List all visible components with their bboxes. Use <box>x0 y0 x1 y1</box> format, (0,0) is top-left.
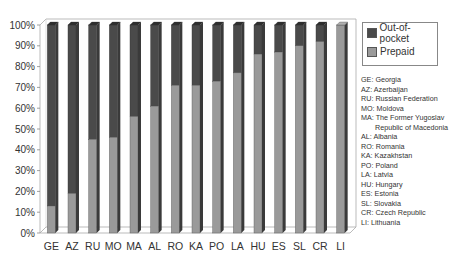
x-category-label: RO <box>167 240 183 252</box>
out-of-pocket-swatch-icon <box>367 28 377 38</box>
x-category-label: LA <box>231 240 244 252</box>
y-tick-label: 10% <box>15 207 35 218</box>
abbr-line-continuation: Republic of Macedonia <box>361 123 448 133</box>
abbr-line: AZ: Azerbaijan <box>361 85 448 95</box>
legend-label: Out-of-pocket <box>380 22 437 44</box>
abbr-line: RO: Romania <box>361 142 448 152</box>
y-tick-label: 90% <box>15 40 35 51</box>
bar-cr <box>316 22 327 233</box>
bar-al <box>151 22 162 233</box>
bar-la <box>233 22 244 233</box>
abbr-line: ES: Estonia <box>361 189 448 199</box>
abbr-line: PO: Poland <box>361 161 448 171</box>
x-category-label: KA <box>189 240 203 252</box>
bar-es <box>275 22 286 233</box>
x-category-label: GE <box>44 240 59 252</box>
x-category-label: SL <box>293 240 306 252</box>
abbr-line: SL: Slovakia <box>361 199 448 209</box>
y-tick-label: 80% <box>15 61 35 72</box>
y-tick-label: 100% <box>9 20 35 31</box>
bar-ma <box>130 22 141 233</box>
x-category-label: LI <box>336 240 345 252</box>
abbr-line: KA: Kazakhstan <box>361 151 448 161</box>
legend-item-out-of-pocket: Out-of-pocket <box>363 23 437 42</box>
x-category-label: PO <box>209 240 224 252</box>
bar-ru <box>89 22 100 233</box>
bar-li <box>337 22 348 233</box>
bar-mo <box>109 22 120 233</box>
y-tick-label: 40% <box>15 144 35 155</box>
abbr-line: LA: Latvia <box>361 170 448 180</box>
abbr-line: AL: Albania <box>361 132 448 142</box>
x-category-label: MO <box>105 240 122 252</box>
y-tick-label: 30% <box>15 165 35 176</box>
abbr-line: HU: Hungary <box>361 180 448 190</box>
x-category-label: ES <box>272 240 286 252</box>
y-tick-label: 0% <box>21 228 36 239</box>
bar-ge <box>47 22 58 233</box>
abbr-line: RU: Russian Federation <box>361 94 448 104</box>
x-category-label: CR <box>312 240 328 252</box>
x-category-label: AZ <box>65 240 79 252</box>
country-abbreviation-key: GE: Georgia AZ: Azerbaijan RU: Russian F… <box>361 75 448 227</box>
x-category-label: HU <box>250 240 265 252</box>
bar-ro <box>171 22 182 233</box>
bar-ka <box>192 22 203 233</box>
x-axis-categories: GEAZRUMOMAALROKAPOLAHUESSLCRLI <box>44 240 345 252</box>
legend-item-prepaid: Prepaid <box>363 42 437 61</box>
abbr-line: LI: Lithuania <box>361 218 448 228</box>
abbr-line: GE: Georgia <box>361 75 448 85</box>
y-tick-label: 20% <box>15 186 35 197</box>
y-tick-label: 50% <box>15 124 35 135</box>
abbr-line: CR: Czech Republic <box>361 208 448 218</box>
chart-bars <box>47 22 347 233</box>
x-category-label: RU <box>85 240 100 252</box>
bar-hu <box>254 22 265 233</box>
abbr-line: MO: Moldova <box>361 104 448 114</box>
prepaid-swatch-icon <box>367 47 377 57</box>
x-category-label: MA <box>126 240 142 252</box>
y-tick-label: 70% <box>15 82 35 93</box>
bar-az <box>68 22 79 233</box>
bar-po <box>213 22 224 233</box>
x-category-label: AL <box>148 240 161 252</box>
bar-sl <box>295 22 306 233</box>
chart-legend: Out-of-pocket Prepaid <box>362 22 438 66</box>
y-axis-ticks: 0%10%20%30%40%50%60%70%80%90%100% <box>9 20 40 239</box>
abbr-line: MA: The Former Yugoslav <box>361 113 448 123</box>
legend-label: Prepaid <box>380 46 414 57</box>
y-tick-label: 60% <box>15 103 35 114</box>
